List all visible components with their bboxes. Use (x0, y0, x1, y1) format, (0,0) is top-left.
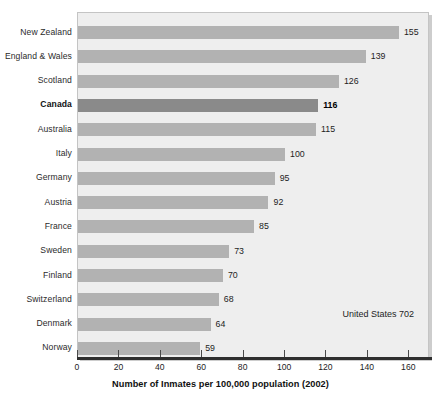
bar-value-label: 95 (280, 172, 290, 185)
x-tick-label: 120 (318, 362, 332, 372)
bar-value-label: 85 (259, 220, 269, 233)
category-label: Finland (0, 270, 72, 280)
category-label: Sweden (0, 245, 72, 255)
category-label: England & Wales (0, 51, 72, 61)
bar (78, 26, 399, 39)
x-tick-label: 60 (196, 362, 206, 372)
category-label: Germany (0, 172, 72, 182)
x-tick-mark (284, 350, 285, 357)
x-tick-mark (201, 350, 202, 357)
bar (78, 220, 254, 233)
x-tick-label: 0 (75, 362, 80, 372)
bar (78, 293, 219, 306)
x-tick-label: 20 (114, 362, 124, 372)
bar (78, 75, 339, 88)
x-tick-label: 160 (401, 362, 415, 372)
bar-value-label: 70 (228, 269, 238, 282)
bar (78, 123, 316, 136)
category-label: Norway (0, 342, 72, 352)
bar (78, 318, 211, 331)
x-tick-mark (77, 350, 78, 357)
category-label: Canada (0, 99, 72, 109)
x-axis-title: Number of Inmates per 100,000 population… (0, 379, 441, 389)
bar (78, 269, 223, 282)
bar-value-label: 126 (344, 75, 359, 88)
bar (78, 196, 268, 209)
x-tick-label: 40 (155, 362, 165, 372)
x-tick-mark (325, 350, 326, 357)
bar (78, 99, 318, 112)
x-tick-mark (243, 350, 244, 357)
bar (78, 342, 200, 355)
x-tick-label: 100 (277, 362, 291, 372)
x-tick-mark (118, 350, 119, 357)
bar-value-label: 115 (321, 123, 335, 136)
bar-value-label: 92 (273, 196, 283, 209)
x-tick-mark (367, 350, 368, 357)
plot-area: 1551391261161151009592857370686459 Unite… (77, 12, 429, 358)
category-label: Denmark (0, 318, 72, 328)
bar-value-label: 116 (323, 99, 337, 112)
category-label: Switzerland (0, 294, 72, 304)
x-tick-mark (408, 350, 409, 357)
x-tick-label: 80 (238, 362, 248, 372)
category-label: Scotland (0, 75, 72, 85)
bars-container: 1551391261161151009592857370686459 (78, 13, 428, 357)
bar-value-label: 155 (404, 26, 419, 39)
bar (78, 245, 229, 258)
bar (78, 148, 285, 161)
bar (78, 50, 366, 63)
category-label: Italy (0, 148, 72, 158)
bar-value-label: 73 (234, 245, 244, 258)
category-label: New Zealand (0, 27, 72, 37)
bar-value-label: 68 (224, 293, 234, 306)
bar-value-label: 64 (216, 318, 226, 331)
category-label: Australia (0, 124, 72, 134)
bar-value-label: 59 (205, 342, 215, 355)
category-axis: New ZealandEngland & WalesScotlandCanada… (0, 12, 72, 358)
annotation-united-states: United States 702 (342, 309, 414, 319)
category-label: Austria (0, 197, 72, 207)
x-tick-mark (160, 350, 161, 357)
bar (78, 172, 275, 185)
bar-chart-figure: New ZealandEngland & WalesScotlandCanada… (0, 0, 441, 397)
category-label: France (0, 221, 72, 231)
bar-value-label: 139 (371, 50, 386, 63)
bar-value-label: 100 (290, 148, 305, 161)
x-tick-label: 140 (360, 362, 374, 372)
x-axis-line (77, 357, 432, 360)
